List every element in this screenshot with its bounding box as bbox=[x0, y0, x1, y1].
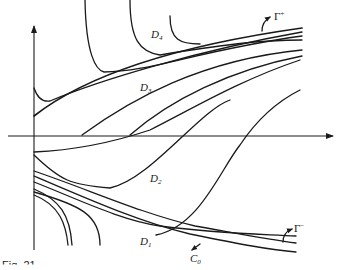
label-D3: D3 bbox=[139, 81, 152, 95]
label-D4: D4 bbox=[150, 28, 163, 42]
c0-arrow-icon bbox=[192, 244, 200, 250]
gamma-plus-arrow-icon bbox=[262, 17, 270, 31]
phase-portrait-diagram: D4 D3 D2 D1 Γ+ Γ− C0 bbox=[0, 0, 338, 270]
trajectory-upper-4 bbox=[170, 16, 200, 44]
trajectory-upper-5 bbox=[82, 50, 302, 135]
label-gamma-plus: Γ+ bbox=[274, 10, 284, 22]
label-C0: C0 bbox=[190, 252, 201, 266]
label-D2: D2 bbox=[149, 172, 162, 186]
trajectory-lower-2 bbox=[34, 182, 296, 236]
trajectory-upper-2 bbox=[85, 0, 302, 72]
label-gamma-minus: Γ− bbox=[294, 222, 304, 234]
trajectory-lower-5 bbox=[34, 195, 68, 245]
trajectory-cross-3 bbox=[156, 90, 300, 235]
trajectory-cross-1 bbox=[34, 60, 300, 152]
trajectory-lower-1 bbox=[34, 176, 296, 252]
label-D1: D1 bbox=[139, 235, 151, 249]
trajectory-cross-2 bbox=[34, 100, 230, 188]
